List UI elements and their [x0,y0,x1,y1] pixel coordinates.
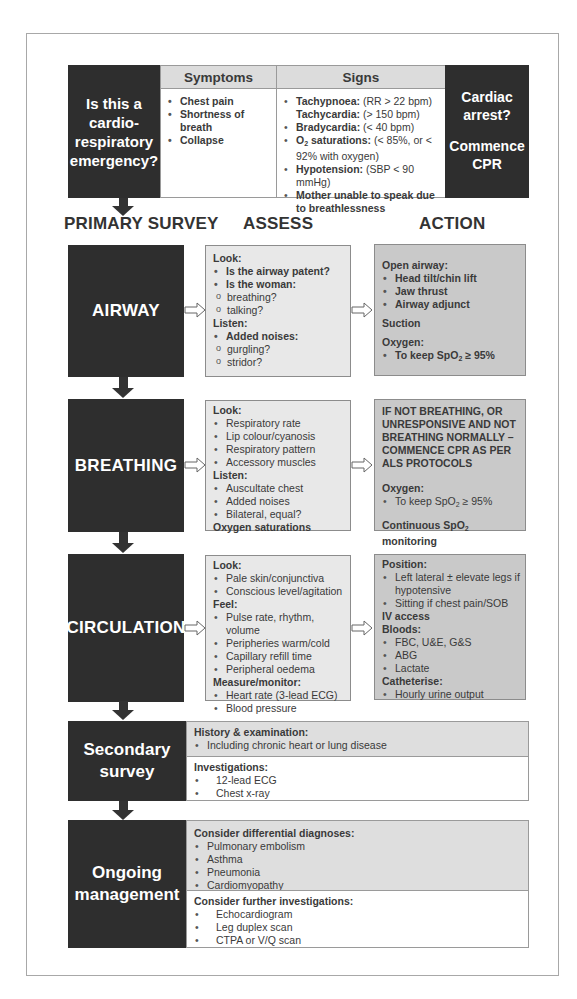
question-line: cardio- [70,113,158,132]
assess-item: Peripheral oedema [213,663,345,676]
assess-item: Pale skin/conjunctiva [213,572,345,585]
assess-item: Capillary refill time [213,650,345,663]
differential-item: Pulmonary embolism [194,840,522,853]
action-item: Lactate [382,662,520,675]
sign-item: Bradycardia: (< 40 bpm) [283,121,441,134]
circulation-assess-box: Look: Pale skin/conjunctiva Conscious le… [205,555,351,701]
assess-item: Respiratory rate [213,417,345,430]
investigations-panel: Investigations: 12-lead ECG Chest x-ray [186,756,529,801]
airway-assess-box: Look: Is the airway patent? Is the woman… [205,245,351,377]
cardiac-arrest-box: Cardiac arrest? Commence CPR [445,65,529,198]
ongoing-management-box: Ongoing management [68,820,186,948]
down-arrow-icon [112,377,135,399]
action-item: FBC, U&E, G&S [382,636,520,649]
assess-subitem: talking? [213,304,345,317]
breathing-action-box: IF NOT BREATHING, OR UNRESPONSIVE AND NO… [374,399,526,531]
assess-heading: ASSESS [243,214,313,234]
action-item: Head tilt/chin lift [382,272,520,285]
assess-item: Heart rate (3-lead ECG) [213,689,345,702]
assess-subitem: gurgling? [213,343,345,356]
assess-item: Pulse rate, rhythm, volume [213,611,345,637]
primary-survey-heading: PRIMARY SURVEY [64,214,219,234]
symptoms-list: Chest pain Shortness of breath Collapse [160,88,277,198]
breathing-box: BREATHING [68,399,184,532]
assess-item: Is the woman: [213,278,345,291]
investigation-item: Chest x-ray [194,787,522,800]
action-item: ABG [382,649,520,662]
assess-item: Accessory muscles [213,456,345,469]
arrest-action-line: CPR [449,155,524,173]
symptom-item: Chest pain [167,95,272,108]
action-item: To keep SpO2 ≥ 95% [382,495,520,511]
arrest-question-line: arrest? [461,106,512,124]
action-item: Airway adjunct [382,298,520,311]
down-arrow-icon [112,701,135,721]
circulation-action-box: Position: Left lateral ± elevate legs if… [374,554,526,700]
investigation-item: 12-lead ECG [194,774,522,787]
differential-item: Pneumonia [194,866,522,879]
action-item: Jaw thrust [382,285,520,298]
assess-subitem: stridor? [213,356,345,369]
airway-action-box: Open airway: Head tilt/chin lift Jaw thr… [374,244,526,376]
airway-box: AIRWAY [68,245,184,377]
differential-panel: Consider differential diagnoses: Pulmona… [186,820,529,891]
down-arrow-icon [112,532,135,554]
symptom-item: Shortness of breath [167,108,272,134]
history-panel: History & examination: Including chronic… [186,721,529,757]
breathing-assess-box: Look: Respiratory rate Lip colour/cyanos… [205,400,351,531]
question-line: respiratory [70,132,158,151]
assess-item: Blood pressure [213,702,345,715]
sign-item: Hypotension: (SBP < 90 mmHg) [283,163,441,189]
action-item: Hourly urine output [382,688,520,701]
further-item: Echocardiogram [194,908,522,921]
assess-item: Lip colour/cyanosis [213,430,345,443]
further-item: Leg duplex scan [194,921,522,934]
assess-item: Conscious level/agitation [213,585,345,598]
sign-item: O2 saturations: (< 85%, or < 92% with ox… [283,134,441,163]
action-item: Left lateral ± elevate legs if hypotensi… [382,571,520,597]
circulation-box: CIRCULATION [68,554,184,702]
assess-item: Added noises: [213,330,345,343]
symptoms-header: Symptoms [160,65,277,89]
action-item: Sitting if chest pain/SOB [382,597,520,610]
right-arrow-icon [351,620,375,636]
monitoring-note: Continuous SpO2 monitoring [382,519,520,548]
assess-item: Bilateral, equal? [213,508,345,521]
right-arrow-icon [351,302,375,318]
signs-header: Signs [276,65,446,89]
assess-item: Added noises [213,495,345,508]
action-item: To keep SpO2 ≥ 95% [382,349,520,365]
further-investigations-panel: Consider further investigations: Echocar… [186,890,529,948]
action-heading: ACTION [419,214,485,234]
further-item: CTPA or V/Q scan [194,934,522,947]
assess-item: Respiratory pattern [213,443,345,456]
sign-item: Tachypnoea: (RR > 22 bpm)Tachycardia: (>… [283,95,441,121]
assess-item: Peripheries warm/cold [213,637,345,650]
secondary-survey-box: Secondary survey [68,721,186,801]
symptom-item: Collapse [167,134,272,147]
right-arrow-icon [351,457,375,473]
question-line: Is this a [70,94,158,113]
down-arrow-icon [112,801,135,821]
sign-item: Mother unable to speak due to breathless… [283,189,441,215]
emergency-question-box: Is this a cardio- respiratory emergency? [68,65,160,198]
differential-item: Asthma [194,853,522,866]
assess-item: Auscultate chest [213,482,345,495]
history-item: Including chronic heart or lung disease [194,739,522,752]
question-line: emergency? [70,151,158,170]
assess-subitem: breathing? [213,291,345,304]
signs-list: Tachypnoea: (RR > 22 bpm)Tachycardia: (>… [276,88,446,198]
assess-item: Is the airway patent? [213,265,345,278]
arrest-action-line: Commence [449,137,524,155]
arrest-question-line: Cardiac [461,88,512,106]
